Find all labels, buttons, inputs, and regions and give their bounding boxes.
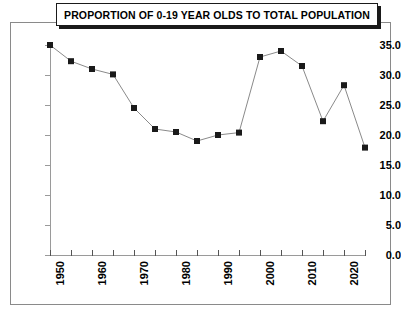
- data-point: [341, 82, 347, 88]
- plot-area: 0.05.010.015.020.025.030.035.0 195019601…: [0, 0, 401, 315]
- data-point: [131, 105, 137, 111]
- chart-title-box: PROPORTION OF 0-19 YEAR OLDS TO TOTAL PO…: [56, 3, 378, 26]
- data-point: [152, 126, 158, 132]
- chart-page: PROPORTION OF 0-19 YEAR OLDS TO TOTAL PO…: [0, 0, 401, 315]
- data-point: [194, 138, 200, 144]
- data-point: [362, 145, 368, 151]
- data-point: [236, 130, 242, 136]
- data-point: [257, 54, 263, 60]
- data-point: [89, 66, 95, 72]
- data-point: [320, 118, 326, 124]
- data-point: [110, 71, 116, 77]
- data-point: [68, 58, 74, 64]
- data-point: [299, 63, 305, 69]
- data-point: [173, 129, 179, 135]
- data-series: [0, 0, 401, 315]
- series-line: [50, 45, 365, 148]
- data-point: [47, 42, 53, 48]
- page-title: PROPORTION OF 0-19 YEAR OLDS TO TOTAL PO…: [64, 9, 370, 21]
- series-markers: [47, 42, 368, 151]
- data-point: [278, 48, 284, 54]
- data-point: [215, 132, 221, 138]
